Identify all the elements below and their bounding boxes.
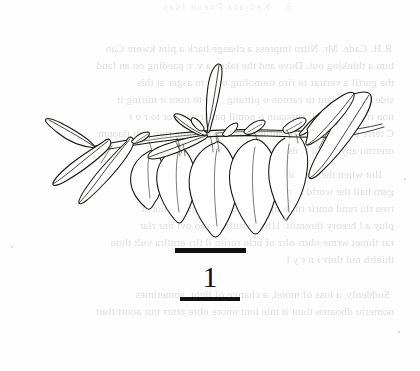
leaf-left-outer — [46, 119, 97, 148]
scale-rule-bottom — [180, 297, 240, 301]
botanical-line-drawing — [0, 0, 420, 371]
figure-number: 1 — [0, 260, 420, 294]
scan-speck — [404, 178, 406, 180]
figure-caption-block: 1 — [0, 248, 420, 301]
scan-speck — [398, 331, 400, 333]
bract-pendulous-5 — [269, 137, 308, 220]
scale-rule-top — [175, 248, 246, 253]
leaflet-left-node — [132, 132, 150, 143]
scanned-page: Kedjara Poean lday 3 R.H. Cade. Mr. Nitr… — [0, 0, 420, 371]
leaflet-mid-node — [244, 120, 265, 134]
